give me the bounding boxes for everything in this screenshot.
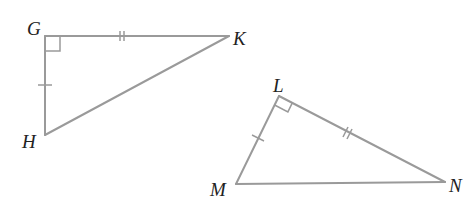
side-hk [45,36,229,135]
vertex-label-h: H [21,131,37,152]
triangle-ghk: G K H [21,18,247,152]
vertex-label-g: G [27,18,41,39]
right-angle-mark-g [45,36,60,51]
vertex-label-n: N [448,175,463,196]
vertex-label-m: M [209,179,227,200]
vertex-label-l: L [272,75,284,96]
vertex-label-k: K [232,28,247,49]
side-lm [236,96,279,184]
right-angle-mark-l [275,103,293,112]
geometry-diagram: G K H L M N [0,0,470,221]
side-mn [236,182,445,184]
triangle-lmn: L M N [209,75,463,200]
side-ln [279,96,445,182]
